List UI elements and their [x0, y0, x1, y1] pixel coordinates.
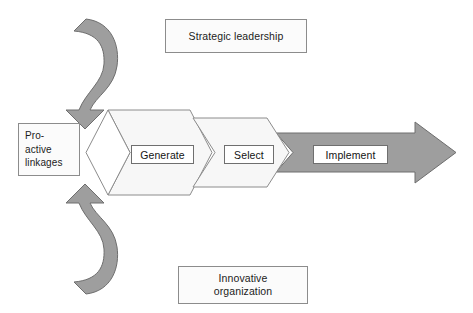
innovative-organization-box: Innovative organization — [178, 266, 308, 304]
lower-feedback-ribbon — [66, 184, 118, 294]
innovative-organization-label: Innovative organization — [214, 272, 272, 298]
diagram-canvas: Strategic leadership Innovative organiza… — [0, 0, 473, 313]
generate-text: Generate — [140, 149, 185, 161]
strategic-leadership-box: Strategic leadership — [165, 19, 307, 53]
stage-label-generate: Generate — [131, 145, 194, 164]
strategic-leadership-label: Strategic leadership — [189, 30, 284, 43]
stage-label-implement: Implement — [313, 145, 388, 164]
stage-label-select: Select — [224, 145, 274, 164]
implement-text: Implement — [326, 149, 376, 161]
proactive-linkages-box: Pro- active linkages — [18, 123, 80, 176]
select-text: Select — [234, 149, 264, 161]
proactive-linkages-label: Pro- active linkages — [25, 129, 63, 170]
